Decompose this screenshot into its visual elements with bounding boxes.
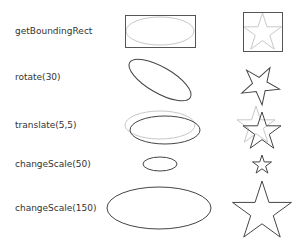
- rotated-ellipse: [123, 51, 197, 109]
- scaled-ellipse-150: [107, 187, 211, 229]
- bounding-rect: [244, 13, 283, 52]
- bounding-rect-star-group: [243, 13, 282, 52]
- shapes-canvas: [0, 0, 298, 246]
- bounding-rect-ellipse-group: [126, 16, 196, 48]
- original-star-ghost: [237, 106, 275, 142]
- ellipse-shape: [126, 17, 194, 45]
- scaled-ellipse-50: [143, 157, 177, 171]
- original-ellipse-ghost: [125, 111, 195, 139]
- scaled-star-50: [252, 155, 271, 173]
- translated-ellipse: [130, 116, 200, 144]
- scaled-star-150: [233, 181, 292, 237]
- rotated-star: [235, 58, 286, 108]
- translated-star: [243, 112, 281, 148]
- star-shape: [243, 13, 281, 49]
- bounding-rect: [126, 16, 196, 48]
